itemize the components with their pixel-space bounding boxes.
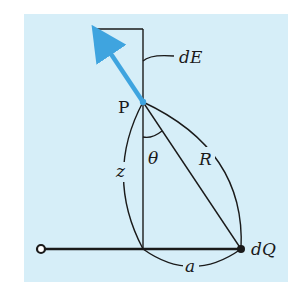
theta-label: θ <box>148 148 158 168</box>
de-label: dE <box>179 47 203 67</box>
z-label: z <box>115 161 126 181</box>
ring-center-marker <box>37 245 45 253</box>
charge-dq-dot <box>237 245 245 253</box>
point-p-dot <box>140 99 146 105</box>
point-p-label: P <box>118 97 129 117</box>
dq-label: dQ <box>251 239 276 259</box>
a-label: a <box>185 256 195 276</box>
charged-ring-field-diagram: dE P θ z R a dQ <box>0 0 304 297</box>
r-label: R <box>198 149 212 169</box>
